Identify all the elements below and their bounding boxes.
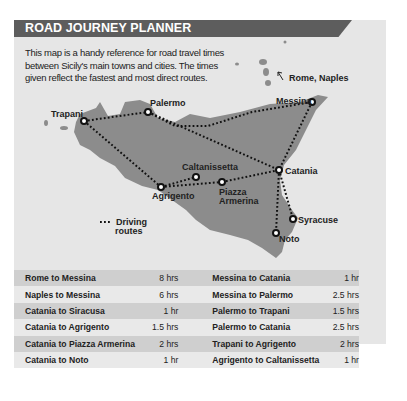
city-marker-syracuse bbox=[290, 216, 296, 222]
label-syracuse: Syracuse bbox=[298, 215, 338, 225]
city-marker-palermo bbox=[145, 109, 151, 115]
table-row: Catania to Noto 1 hr Agrigento to Caltan… bbox=[14, 352, 359, 368]
table-row: Catania to Piazza Armerina 2 hrs Trapani… bbox=[14, 336, 359, 352]
label-armerina: Armerina bbox=[219, 196, 260, 206]
label-trapani: Trapani bbox=[51, 109, 83, 119]
arrow-up-left-icon bbox=[278, 72, 283, 80]
label-palermo: Palermo bbox=[150, 98, 186, 108]
legend-label-2: routes bbox=[115, 226, 143, 236]
table-row: Catania to Agrigento 1.5 hrs Palermo to … bbox=[14, 319, 359, 335]
travel-times-table: Rome to Messina 8 hrs Messina to Catania… bbox=[14, 270, 359, 368]
city-marker-piazza-armerina bbox=[219, 179, 225, 185]
city-marker-catania bbox=[276, 167, 282, 173]
label-rome-naples: Rome, Naples bbox=[289, 73, 349, 83]
table-row: Catania to Siracusa 1 hr Palermo to Trap… bbox=[14, 303, 359, 319]
table-row: Rome to Messina 8 hrs Messina to Catania… bbox=[14, 270, 359, 286]
table-row: Naples to Messina 6 hrs Messina to Paler… bbox=[14, 286, 359, 302]
label-agrigento: Agrigento bbox=[152, 191, 195, 201]
label-catania: Catania bbox=[285, 166, 319, 176]
city-marker-agrigento bbox=[158, 184, 164, 190]
label-messina: Messina bbox=[276, 96, 313, 106]
label-noto: Noto bbox=[279, 234, 300, 244]
label-caltanissetta: Caltanissetta bbox=[182, 162, 239, 172]
city-marker-caltanissetta bbox=[193, 174, 199, 180]
